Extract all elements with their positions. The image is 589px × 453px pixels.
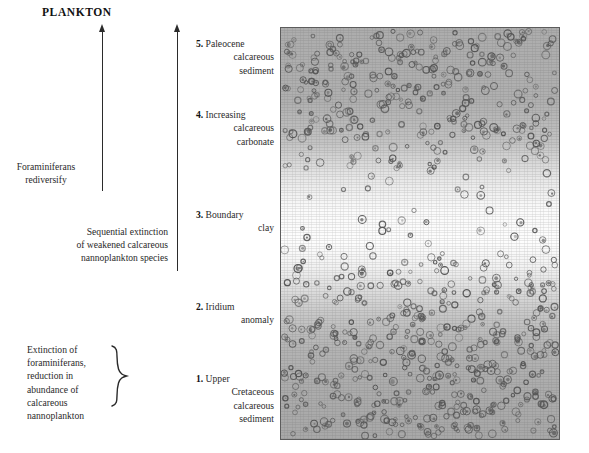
figure-canvas: PLANKTON Foraminiferans rediversify Sequ… xyxy=(0,0,589,453)
arrow-shaft xyxy=(102,31,103,191)
layer-text-line1: Paleocene xyxy=(206,38,245,49)
layer-text-line1: Boundary xyxy=(206,209,244,220)
layer-text-line2: calcareous xyxy=(196,121,274,134)
layer-number: 2. xyxy=(196,301,203,312)
annotation-extinction-foraminiferans: Extinction of foraminiferans, reduction … xyxy=(27,343,111,422)
layer-number: 1. xyxy=(196,373,203,384)
layer-text-line2: anomaly xyxy=(196,313,274,326)
layer-text-line3: carbonate xyxy=(196,135,274,148)
layer-text-line3: sediment xyxy=(196,64,274,77)
layer-label-1: 1. Upper Cretaceous calcareous sediment xyxy=(196,372,274,426)
layer-text-line2: clay xyxy=(196,221,274,234)
stratigraphic-time-arrow xyxy=(172,24,184,271)
layer-text-line1: Iridium xyxy=(206,301,235,312)
page-title: PLANKTON xyxy=(42,6,112,18)
curly-brace-icon xyxy=(109,345,131,407)
layer-text-line2: Cretaceous xyxy=(196,385,274,398)
layer-text-line3: calcareous xyxy=(196,399,274,412)
plankton-recovery-arrow xyxy=(97,24,109,191)
microfossil-layer xyxy=(281,28,559,439)
layer-number: 5. xyxy=(196,38,203,49)
layer-text-line2: calcareous xyxy=(196,50,274,63)
layer-number: 4. xyxy=(196,109,203,120)
layer-label-2: 2. Iridium anomaly xyxy=(196,300,274,327)
layer-text-line1: Increasing xyxy=(206,109,246,120)
sediment-core-photograph xyxy=(280,27,560,440)
layer-label-3: 3. Boundary clay xyxy=(196,208,274,235)
layer-number: 3. xyxy=(196,209,203,220)
layer-label-4: 4. Increasing calcareous carbonate xyxy=(196,108,274,148)
annotation-sequential-extinction: Sequential extinction of weakened calcar… xyxy=(28,225,168,265)
arrow-shaft xyxy=(177,31,178,271)
layer-text-line1: Upper xyxy=(206,373,230,384)
layer-label-5: 5. Paleocene calcareous sediment xyxy=(196,37,274,77)
layer-text-line4: sediment xyxy=(196,412,274,425)
annotation-rediversify: Foraminiferans rediversify xyxy=(0,160,92,186)
